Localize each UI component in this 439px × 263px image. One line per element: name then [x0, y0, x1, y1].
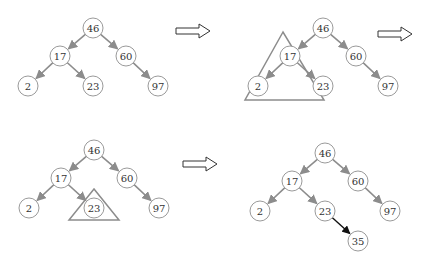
tree-node-17: 17	[282, 171, 302, 191]
tree-node-17: 17	[51, 168, 71, 188]
node-label: 23	[317, 81, 330, 92]
node-label: 60	[120, 51, 133, 62]
edge-46-60	[331, 34, 348, 48]
tree-node-60: 60	[348, 171, 368, 191]
tree-node-60: 60	[116, 46, 136, 66]
node-label: 2	[257, 206, 263, 217]
edge-46-60	[101, 34, 118, 48]
edge-17-23	[299, 188, 316, 204]
node-label: 60	[352, 176, 365, 187]
tree-node-2: 2	[248, 76, 268, 96]
tree-panel-step1: 46176022397	[18, 18, 168, 96]
edge-17-2	[37, 185, 54, 201]
edge-60-97	[133, 63, 150, 79]
tree-node-23: 23	[84, 198, 104, 218]
node-label: 97	[382, 81, 395, 92]
node-label: 97	[153, 203, 166, 214]
tree-panel-step2: 46176022397	[245, 18, 398, 100]
edge-60-97	[134, 185, 151, 201]
edge-46-17	[68, 34, 85, 48]
edge-23-35	[332, 218, 349, 234]
node-label: 17	[284, 51, 297, 62]
tree-node-2: 2	[18, 76, 38, 96]
edge-46-17	[69, 156, 86, 170]
tree-node-23: 23	[315, 201, 335, 221]
node-label: 2	[26, 203, 32, 214]
tree-node-46: 46	[84, 140, 104, 160]
node-label: 17	[286, 176, 299, 187]
tree-node-35: 35	[348, 231, 368, 251]
node-label: 23	[87, 81, 100, 92]
tree-node-2: 2	[250, 201, 270, 221]
tree-node-46: 46	[315, 143, 335, 163]
tree-node-46: 46	[83, 18, 103, 38]
node-label: 46	[319, 148, 332, 159]
edge-17-2	[268, 188, 285, 204]
node-label: 2	[25, 81, 31, 92]
node-label: 97	[384, 206, 397, 217]
tree-node-97: 97	[149, 198, 169, 218]
tree-node-60: 60	[117, 168, 137, 188]
node-label: 46	[317, 23, 330, 34]
node-label: 46	[87, 23, 100, 34]
tree-node-60: 60	[346, 46, 366, 66]
tree-node-97: 97	[148, 76, 168, 96]
node-label: 17	[54, 51, 67, 62]
node-label: 2	[255, 81, 261, 92]
edge-46-60	[333, 159, 350, 173]
tree-node-97: 97	[380, 201, 400, 221]
right-arrow-icon	[183, 157, 217, 171]
edge-17-2	[266, 63, 283, 79]
node-label: 17	[55, 173, 68, 184]
node-label: 23	[88, 203, 101, 214]
edge-46-17	[298, 34, 315, 48]
edge-17-23	[297, 63, 314, 79]
diagram-canvas: 4617602239746176022397461760223974617602…	[0, 0, 439, 263]
right-arrow-icon	[378, 27, 412, 41]
edge-17-23	[67, 63, 84, 79]
node-label: 60	[121, 173, 134, 184]
edge-60-97	[365, 188, 382, 204]
right-arrow-icon	[176, 24, 210, 38]
edge-60-97	[363, 63, 380, 79]
node-label: 35	[352, 236, 365, 247]
tree-node-97: 97	[378, 76, 398, 96]
tree-node-23: 23	[313, 76, 333, 96]
node-label: 46	[88, 145, 101, 156]
tree-node-46: 46	[313, 18, 333, 38]
tree-panel-step4: 4617602239735	[250, 143, 400, 251]
tree-node-17: 17	[280, 46, 300, 66]
tree-node-2: 2	[19, 198, 39, 218]
tree-panel-step3: 46176022397	[19, 140, 169, 220]
node-label: 23	[319, 206, 332, 217]
tree-node-17: 17	[50, 46, 70, 66]
tree-node-23: 23	[83, 76, 103, 96]
node-label: 97	[152, 81, 165, 92]
edge-46-17	[300, 159, 317, 173]
node-label: 60	[350, 51, 363, 62]
edge-17-2	[36, 63, 53, 79]
edge-46-60	[102, 156, 119, 170]
edge-17-23	[68, 185, 85, 201]
